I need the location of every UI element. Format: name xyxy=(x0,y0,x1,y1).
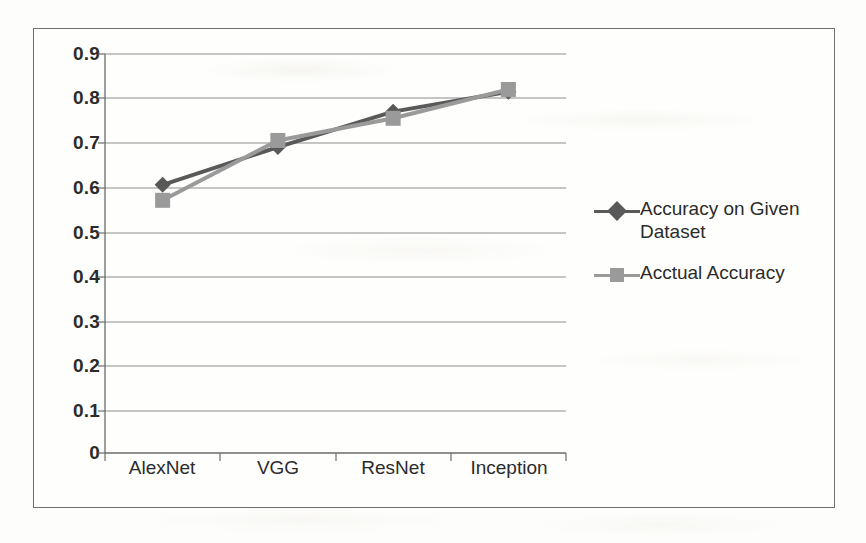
data-point-square[interactable] xyxy=(386,111,401,126)
legend-item-acctual-accuracy[interactable]: Acctual Accuracy xyxy=(594,261,834,287)
data-point-square[interactable] xyxy=(155,193,170,208)
series-acctual-accuracy xyxy=(155,82,516,208)
data-point-square[interactable] xyxy=(270,133,285,148)
legend-item-accuracy-on-given-dataset[interactable]: Accuracy on Given Dataset xyxy=(594,197,834,243)
chart-frame: 0 0.1 0.2 0.3 0.4 0.5 0.6 0.7 0.8 0.9 xyxy=(33,28,835,508)
x-tick-label-inception: Inception xyxy=(470,457,547,479)
x-tick-label-resnet: ResNet xyxy=(361,457,424,479)
chart-legend: Accuracy on Given Dataset Acctual Accura… xyxy=(594,197,834,305)
x-tick-label-vgg: VGG xyxy=(257,457,299,479)
y-axis-ticks xyxy=(98,54,105,453)
legend-key-series-0 xyxy=(594,199,640,223)
gridlines xyxy=(105,54,566,411)
legend-label-series-0: Accuracy on Given Dataset xyxy=(640,197,818,243)
series-layer xyxy=(155,82,517,208)
series-line xyxy=(163,89,509,200)
data-point-diamond[interactable] xyxy=(155,177,171,193)
legend-key-series-1 xyxy=(594,263,640,287)
diamond-marker-icon xyxy=(607,201,627,221)
series-line xyxy=(163,92,509,185)
square-marker-icon xyxy=(610,268,624,282)
data-point-square[interactable] xyxy=(501,82,516,97)
x-tick-label-alexnet: AlexNet xyxy=(129,457,196,479)
legend-label-series-1: Acctual Accuracy xyxy=(640,261,785,284)
plot-area: 0 0.1 0.2 0.3 0.4 0.5 0.6 0.7 0.8 0.9 xyxy=(34,29,834,507)
x-axis-tick-labels: AlexNet VGG ResNet Inception xyxy=(105,457,566,497)
